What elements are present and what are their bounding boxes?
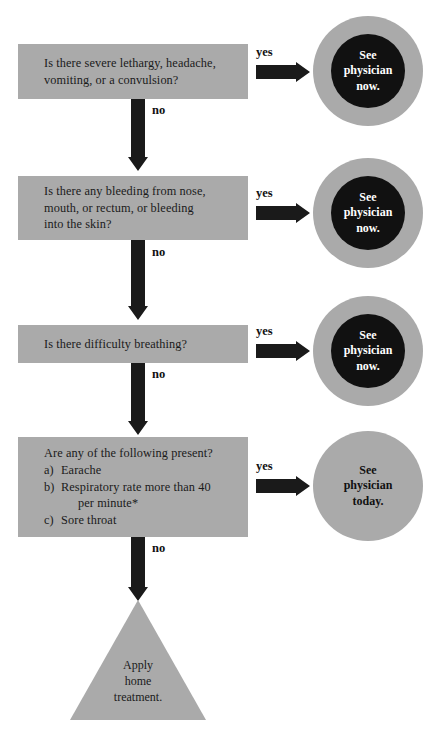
outcome-circle-4-text: See physician today. [344, 463, 393, 510]
arrow-yes-4 [256, 476, 310, 496]
outcome-4-line-3: today. [352, 494, 383, 508]
question-4-item-c-text: Sore throat [61, 512, 213, 529]
outcome-circle-1-core: See physician now. [331, 34, 405, 108]
arrow-yes-1 [256, 62, 310, 82]
outcome-3-line-3: now. [356, 359, 380, 373]
edge-label-yes-1: yes [256, 45, 273, 60]
question-4-item-b-line-2: per minute* [61, 495, 213, 512]
outcome-circle-2-core: See physician now. [331, 176, 405, 250]
edge-label-no-3: no [152, 367, 165, 382]
question-4-item-b-marker: b) [44, 479, 61, 496]
edge-label-yes-2: yes [256, 186, 273, 201]
outcome-2-line-1: See [359, 190, 376, 204]
outcome-4-line-1: See [359, 463, 376, 477]
arrow-no-4 [128, 537, 148, 601]
edge-label-yes-4: yes [256, 459, 273, 474]
question-1-line-2: vomiting, or a convulsion? [44, 73, 178, 87]
question-2-line-1: Is there any bleeding from nose, [44, 184, 206, 198]
question-box-4[interactable]: Are any of the following present? a) Ear… [18, 437, 248, 537]
question-4-item-b-text: Respiratory rate more than 40 per minute… [61, 479, 213, 513]
question-4-item-b: b) Respiratory rate more than 40 per min… [44, 479, 213, 513]
outcome-4-line-2: physician [344, 478, 393, 492]
edge-label-yes-3: yes [256, 324, 273, 339]
edge-label-no-4: no [152, 541, 165, 556]
terminal-line-3: treatment. [114, 690, 162, 704]
arrow-no-1 [128, 99, 148, 171]
arrow-yes-2 [256, 203, 310, 223]
question-box-3[interactable]: Is there difficulty breathing? [18, 325, 248, 363]
outcome-1-line-2: physician [344, 63, 393, 77]
outcome-circle-3[interactable]: See physician now. [313, 296, 423, 406]
flowchart-canvas: Is there severe lethargy, headache, vomi… [0, 0, 440, 742]
outcome-circle-3-text: See physician now. [344, 328, 393, 373]
question-4-list: a) Earache b) Respiratory rate more than… [44, 462, 213, 530]
edge-label-no-1: no [152, 103, 165, 118]
question-box-2-text: Is there any bleeding from nose, mouth, … [18, 183, 216, 234]
outcome-circle-2-text: See physician now. [344, 190, 393, 235]
outcome-1-line-3: now. [356, 79, 380, 93]
question-4-item-a-marker: a) [44, 462, 61, 479]
question-box-1-text: Is there severe lethargy, headache, vomi… [18, 55, 226, 89]
question-1-line-1: Is there severe lethargy, headache, [44, 56, 216, 70]
arrow-no-3 [128, 363, 148, 435]
question-4-item-c: c) Sore throat [44, 512, 213, 529]
outcome-3-line-1: See [359, 328, 376, 342]
terminal-triangle-text: Apply home treatment. [68, 657, 208, 705]
outcome-3-line-2: physician [344, 343, 393, 357]
outcome-circle-2[interactable]: See physician now. [313, 158, 423, 268]
question-4-item-b-line-1: Respiratory rate more than 40 [61, 480, 211, 494]
outcome-circle-1[interactable]: See physician now. [313, 16, 423, 126]
question-3-line-1: Is there difficulty breathing? [44, 337, 187, 351]
question-4-item-a: a) Earache [44, 462, 213, 479]
arrow-yes-3 [256, 341, 310, 361]
question-box-3-text: Is there difficulty breathing? [18, 336, 197, 353]
terminal-line-1: Apply [123, 658, 153, 672]
question-2-line-2: mouth, or rectum, or bleeding [44, 201, 194, 215]
outcome-2-line-2: physician [344, 205, 393, 219]
question-box-2[interactable]: Is there any bleeding from nose, mouth, … [18, 176, 248, 240]
question-2-line-3: into the skin? [44, 217, 112, 231]
question-4-lead: Are any of the following present? [44, 445, 213, 462]
arrow-no-2 [128, 240, 148, 320]
outcome-circle-4[interactable]: See physician today. [313, 431, 423, 541]
question-box-4-text: Are any of the following present? a) Ear… [18, 445, 223, 530]
edge-label-no-2: no [152, 245, 165, 260]
outcome-2-line-3: now. [356, 221, 380, 235]
outcome-circle-3-core: See physician now. [331, 314, 405, 388]
question-4-item-a-text: Earache [61, 462, 213, 479]
question-4-item-c-marker: c) [44, 512, 61, 529]
terminal-line-2: home [125, 674, 152, 688]
outcome-1-line-1: See [359, 48, 376, 62]
outcome-circle-1-text: See physician now. [344, 48, 393, 93]
question-box-1[interactable]: Is there severe lethargy, headache, vomi… [18, 44, 248, 99]
